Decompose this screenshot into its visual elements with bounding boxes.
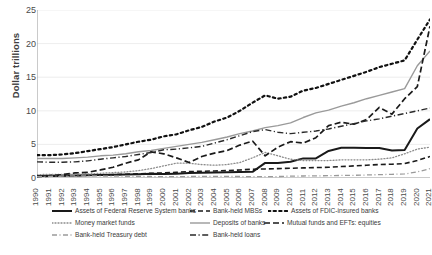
- x-tick-label: 2014: [336, 180, 345, 206]
- x-tick-label: 2007: [247, 180, 256, 206]
- x-tick-label: 1992: [57, 180, 66, 206]
- series-line: [37, 26, 430, 176]
- legend-row: Money market fundsDeposits of banksMutua…: [0, 219, 432, 231]
- x-tick-label: 2012: [310, 180, 319, 206]
- y-tick-label: 10: [6, 106, 36, 116]
- y-tick-label: 5: [6, 139, 36, 149]
- x-tick-label: 1995: [95, 180, 104, 206]
- legend-row: Bank-held Treasury debtBank-held loans: [0, 231, 432, 243]
- series-line: [37, 119, 430, 176]
- x-tick-label: 1998: [133, 180, 142, 206]
- legend-swatch: [190, 231, 210, 239]
- x-tick-label: 2006: [234, 180, 243, 206]
- legend-item[interactable]: Assets of Federal Reserve System banks: [52, 207, 196, 215]
- plot-svg: [37, 10, 430, 178]
- x-tick-label: 2003: [196, 180, 205, 206]
- x-tick-label: 2011: [298, 180, 307, 206]
- x-tick-label: 2005: [222, 180, 231, 206]
- x-tick-label: 2001: [171, 180, 180, 206]
- legend-item[interactable]: Money market funds: [52, 219, 135, 227]
- y-tick-label: 15: [6, 72, 36, 82]
- x-tick-label: 1999: [145, 180, 154, 206]
- legend-item[interactable]: Mutual funds and EFTs: equities: [264, 219, 381, 227]
- y-tick-label: 20: [6, 39, 36, 49]
- x-tick-label: 2018: [386, 180, 395, 206]
- chart-container: Dollar trillions 0510152025 199019911992…: [0, 0, 432, 255]
- x-tick-label: 2009: [272, 180, 281, 206]
- x-tick-label: 2019: [399, 180, 408, 206]
- legend-swatch: [264, 219, 284, 227]
- legend-item[interactable]: Deposits of banks: [190, 219, 265, 227]
- legend-swatch: [190, 219, 210, 227]
- x-tick-label: 1996: [107, 180, 116, 206]
- x-tick-label: 2000: [158, 180, 167, 206]
- legend-label: Bank-held MBSs: [213, 207, 262, 215]
- legend-label: Bank-held Treasury debt: [75, 231, 147, 239]
- x-tick-label: 2015: [348, 180, 357, 206]
- x-tick-label: 2017: [374, 180, 383, 206]
- legend-label: Bank-held loans: [213, 231, 260, 239]
- x-tick-label: 1997: [120, 180, 129, 206]
- legend-label: Assets of Federal Reserve System banks: [75, 207, 196, 215]
- x-tick-label: 2008: [260, 180, 269, 206]
- y-axis-ticks: 0510152025: [0, 0, 36, 185]
- x-tick-label: 1991: [44, 180, 53, 206]
- legend-label: Deposits of banks: [213, 219, 265, 227]
- x-tick-label: 1994: [82, 180, 91, 206]
- legend-row: Assets of Federal Reserve System banksBa…: [0, 207, 432, 219]
- legend-item[interactable]: Bank-held MBSs: [190, 207, 262, 215]
- x-tick-label: 2010: [285, 180, 294, 206]
- x-tick-label: 2016: [361, 180, 370, 206]
- legend-swatch: [52, 219, 72, 227]
- x-axis-ticks: 1990199119921993199419951996199719981999…: [37, 180, 430, 206]
- legend-swatch: [190, 207, 210, 215]
- x-tick-label: 1993: [69, 180, 78, 206]
- series-line: [37, 51, 430, 159]
- x-tick-label: 2020: [412, 180, 421, 206]
- legend-swatch: [52, 231, 72, 239]
- legend-swatch: [268, 207, 288, 215]
- legend-item[interactable]: Assets of FDIC-insured banks: [268, 207, 379, 215]
- x-tick-label: 1990: [31, 180, 40, 206]
- legend-swatch: [52, 207, 72, 215]
- legend-label: Mutual funds and EFTs: equities: [287, 219, 381, 227]
- legend-label: Money market funds: [75, 219, 135, 227]
- plot-area: [37, 10, 430, 178]
- x-tick-label: 2021: [424, 180, 432, 206]
- series-line: [37, 156, 430, 176]
- x-tick-label: 2002: [184, 180, 193, 206]
- x-tick-label: 2013: [323, 180, 332, 206]
- x-tick-label: 2004: [209, 180, 218, 206]
- y-tick-label: 25: [6, 5, 36, 15]
- legend-item[interactable]: Bank-held Treasury debt: [52, 231, 147, 239]
- legend-label: Assets of FDIC-insured banks: [291, 207, 379, 215]
- chart-legend: Assets of Federal Reserve System banksBa…: [0, 207, 432, 253]
- legend-item[interactable]: Bank-held loans: [190, 231, 260, 239]
